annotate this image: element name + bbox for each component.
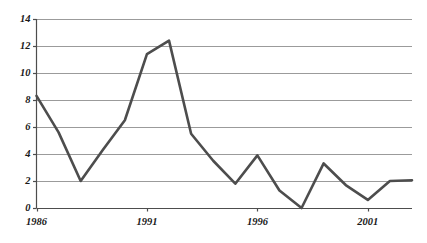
chart-plot-area [0,0,427,243]
y-axis-tick-label: 10 [5,68,31,78]
x-axis-tick-label: 2001 [346,216,390,227]
y-axis-tick-label: 0 [5,203,31,213]
y-axis-tick-label: 8 [5,95,31,105]
line-chart: 14121086420 1986199119962001 [0,0,427,243]
x-axis-tick-label: 1996 [235,216,279,227]
x-axis-tick-label: 1991 [125,216,169,227]
gridlines-group [33,20,412,209]
y-axis-tick-label: 6 [5,122,31,132]
y-axis-tick-label: 14 [5,14,31,24]
y-axis-tick-label: 2 [5,176,31,186]
y-axis-tick-label: 4 [5,149,31,159]
data-series-line [37,41,413,208]
y-axis-tick-label: 12 [5,41,31,51]
x-axis-tick-label: 1986 [15,216,59,227]
